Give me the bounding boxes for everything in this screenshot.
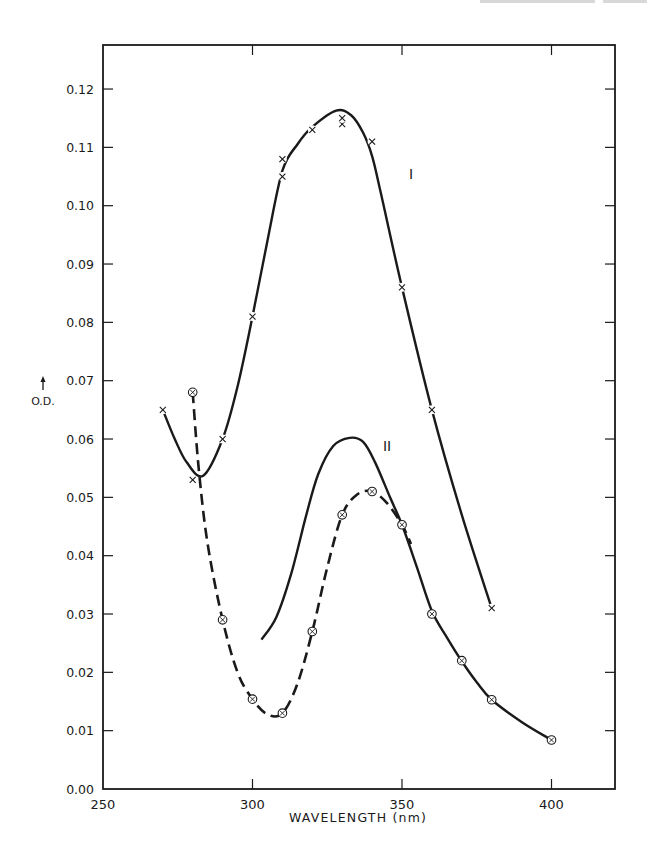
x-marker-icon [188,475,197,484]
plot-frame [103,45,615,789]
x-tick-label: 300 [240,797,265,812]
circle-x-marker-icon [248,695,257,704]
circle-x-marker-icon [458,656,467,665]
y-tick-label: 0.01 [66,723,94,738]
x-marker-icon [248,312,257,321]
circle-x-marker-icon [218,616,227,625]
x-marker-icon [278,155,287,164]
y-tick-label: 0.07 [66,373,94,388]
circle-x-marker-icon [278,709,287,718]
circle-x-marker-icon [188,388,197,397]
x-marker-icon [487,604,496,613]
x-marker-icon [158,405,167,414]
circle-x-marker-icon [428,610,437,619]
y-tick-label: 0.03 [66,607,94,622]
y-tick-label: 0.08 [66,315,94,330]
y-axis-label-group: O.D. [31,376,55,408]
y-tick-label: 0.10 [66,198,94,213]
y-axis-label: O.D. [31,395,55,408]
circle-x-marker-icon [547,736,556,745]
x-marker-icon [427,405,436,414]
y-tick-label: 0.06 [66,432,94,447]
plot-border [103,45,615,789]
circle-x-marker-icon [338,511,347,520]
y-tick-label: 0.11 [66,140,94,155]
x-axis-label: WAVELENGTH (nm) [289,810,427,825]
x-marker-icon [218,435,227,444]
circle-x-marker-icon [308,627,317,636]
circle-x-marker-icon [487,695,496,704]
x-marker-icon [338,114,347,123]
circle-x-marker-icon [398,520,407,529]
axis-ticks [103,45,615,789]
y-tick-label: 0.02 [66,665,94,680]
y-tick-label: 0.05 [66,490,94,505]
absorption-spectrum-chart: 2503003504000.000.010.020.030.040.050.06… [0,0,647,855]
curve-label-ii: II [383,438,391,454]
data-markers [158,114,556,745]
data-curves [163,110,552,740]
x-marker-icon [398,283,407,292]
y-tick-label: 0.00 [66,782,94,797]
x-marker-icon [308,125,317,134]
y-tick-label: 0.12 [66,82,94,97]
up-arrow-head-icon [41,376,46,382]
curve-label-i: I [409,166,413,182]
x-marker-icon [278,172,287,181]
y-tick-label: 0.04 [66,548,94,563]
x-tick-label: 400 [539,797,564,812]
curve-ii [261,438,551,740]
y-tick-label: 0.09 [66,257,94,272]
circle-x-marker-icon [368,487,377,496]
curve-i [163,110,492,608]
x-marker-icon [368,137,377,146]
x-tick-label: 250 [91,797,116,812]
